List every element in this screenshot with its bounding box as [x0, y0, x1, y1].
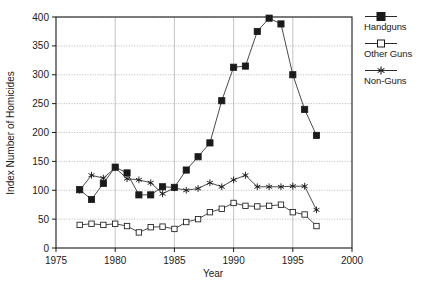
svg-text:100: 100 [32, 185, 49, 196]
svg-text:50: 50 [38, 214, 50, 225]
svg-text:300: 300 [32, 69, 49, 80]
open-square-marker-icon [364, 39, 426, 48]
legend-label-non-guns: Non-Guns [364, 76, 426, 87]
svg-text:1990: 1990 [222, 255, 245, 266]
svg-text:1980: 1980 [104, 255, 127, 266]
svg-text:400: 400 [32, 12, 49, 23]
svg-text:150: 150 [32, 156, 49, 167]
svg-text:350: 350 [32, 40, 49, 51]
svg-text:250: 250 [32, 98, 49, 109]
legend-entry-other-guns: Other Guns [364, 39, 426, 60]
legend-label-handguns: Handguns [364, 22, 426, 33]
legend-label-other-guns: Other Guns [364, 49, 426, 60]
x-axis-title: Year [203, 268, 224, 279]
svg-text:1975: 1975 [45, 255, 68, 266]
svg-text:2000: 2000 [341, 255, 364, 266]
svg-text:1995: 1995 [282, 255, 305, 266]
svg-text:1985: 1985 [163, 255, 186, 266]
svg-text:0: 0 [43, 243, 49, 254]
homicide-index-line-chart: 050100150200250300350400 197519801985199… [0, 0, 426, 287]
filled-square-marker-icon [364, 12, 426, 21]
chart-legend: Handguns Other Guns Non-Guns [364, 12, 426, 93]
legend-entry-non-guns: Non-Guns [364, 66, 426, 87]
legend-entry-handguns: Handguns [364, 12, 426, 33]
y-axis-title: Index Number of Homicides [5, 71, 16, 194]
asterisk-marker-icon [364, 66, 426, 75]
svg-text:200: 200 [32, 127, 49, 138]
